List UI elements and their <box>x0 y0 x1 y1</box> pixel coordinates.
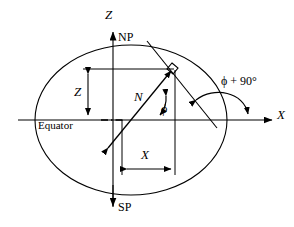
tangent-line <box>147 41 217 128</box>
meridian-ellipse-diagram: Z NP SP X Z X N ϕ ϕ + 90° Equator <box>0 0 294 227</box>
diagram-canvas <box>0 0 294 227</box>
equator-label: Equator <box>38 120 73 131</box>
latitude-angle-label: ϕ <box>161 103 167 115</box>
normal-label: N <box>134 90 143 103</box>
tangent-angle-label: ϕ + 90° <box>221 75 257 87</box>
z-axis-label: Z <box>105 8 112 21</box>
x-axis-label: X <box>277 108 285 121</box>
north-pole-label: NP <box>118 31 133 43</box>
south-pole-label: SP <box>118 201 131 213</box>
x-dimension-label: X <box>141 148 149 161</box>
z-dimension-label: Z <box>74 85 81 98</box>
